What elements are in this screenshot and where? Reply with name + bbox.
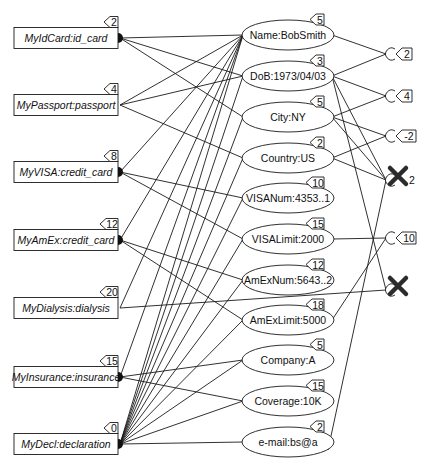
entity-attribute-edge [120, 76, 243, 105]
entity-connector-icon [118, 33, 123, 43]
entity-attribute-edge [120, 35, 243, 240]
entity-label: MyDecl:declaration [21, 438, 110, 450]
constraint-node[interactable]: 2 [386, 48, 412, 60]
attribute-label: AmExLimit:5000 [250, 314, 327, 326]
attribute-label: AmExNum:5643..2 [244, 274, 332, 286]
entity-tag-label: 15 [106, 355, 118, 367]
constraint-tag-label: 2 [404, 48, 410, 60]
violated-constraint-node[interactable]: 2 [386, 168, 415, 186]
constraint-node[interactable]: 10 [386, 232, 416, 244]
attribute-tag-label: 5 [317, 96, 323, 108]
constraint-node[interactable]: 4 [386, 90, 412, 102]
entity-label: MyAmEx:credit_card [18, 234, 116, 246]
constraint-layer: 24-2210 [386, 48, 416, 296]
attribute-tag-label: 10 [312, 177, 324, 189]
attribute-constraint-edge [332, 136, 386, 158]
entity-label: MyIdCard:id_card [25, 32, 109, 44]
entity-node[interactable]: MyDecl:declaration0 [14, 422, 123, 455]
attribute-tag-label: 15 [312, 218, 324, 230]
attribute-constraint-edge [328, 180, 386, 450]
entity-tag-label: 4 [111, 83, 117, 95]
entity-tag-label: 20 [106, 286, 118, 298]
entity-label: MyInsurance:insurance [12, 371, 121, 383]
entity-node[interactable]: MyPassport:passport4 [14, 83, 118, 116]
constraint-tag-label: 2 [409, 174, 415, 186]
entity-label: MyVISA:credit_card [20, 166, 114, 178]
entity-label: MyPassport:passport [17, 99, 117, 111]
attribute-label: DoB:1973/04/03 [250, 70, 326, 82]
attribute-constraint-edge [332, 76, 386, 180]
attribute-tag-label: 2 [317, 421, 323, 433]
attribute-tag-label: 15 [312, 380, 324, 392]
entity-connector-icon [118, 167, 123, 177]
attribute-node[interactable]: AmExNum:5643..212 [242, 259, 334, 296]
entity-attribute-edge [120, 35, 243, 377]
attribute-tag-label: 2 [317, 137, 323, 149]
entity-attribute-edge [120, 280, 243, 444]
constraint-socket-icon [386, 232, 395, 244]
attribute-label: Country:US [261, 152, 315, 164]
attribute-constraint-edge [332, 238, 386, 239]
attribute-label: Company:A [261, 354, 316, 366]
entity-node[interactable]: MyDialysis:dialysis20 [14, 286, 118, 319]
attribute-label: VISALimit:2000 [252, 233, 325, 245]
attribute-node[interactable]: City:NY5 [242, 96, 334, 133]
attribute-tag-label: 5 [317, 339, 323, 351]
entity-node[interactable]: MyIdCard:id_card2 [14, 16, 123, 49]
entity-attribute-edge [120, 172, 243, 198]
attribute-constraint-edge [332, 54, 386, 76]
violated-constraint-node[interactable] [386, 278, 406, 296]
attribute-node[interactable]: Name:BobSmith5 [242, 14, 334, 51]
entity-attribute-edge [120, 35, 243, 308]
entity-tag-label: 2 [111, 16, 117, 28]
constraint-node[interactable]: -2 [386, 130, 416, 142]
attribute-label: Coverage:10K [254, 395, 321, 407]
entity-attribute-edge [120, 35, 243, 172]
attribute-tag-label: 5 [317, 14, 323, 26]
entity-node[interactable]: MyInsurance:insurance15 [12, 355, 123, 388]
constraint-tag-label: -2 [404, 130, 413, 142]
entity-layer: MyIdCard:id_card2MyPassport:passport4MyV… [12, 16, 123, 455]
attribute-constraint-edge [332, 76, 386, 96]
attribute-label: City:NY [270, 111, 306, 123]
attribute-layer: Name:BobSmith5DoB:1973/04/033City:NY5Cou… [242, 14, 334, 458]
entity-label: MyDialysis:dialysis [22, 302, 110, 314]
entity-attribute-edge [120, 38, 243, 117]
constraint-tag-label: 10 [403, 232, 415, 244]
attribute-node[interactable]: VISALimit:200015 [242, 218, 334, 255]
entity-node[interactable]: MyAmEx:credit_card12 [14, 218, 123, 251]
attribute-node[interactable]: DoB:1973/04/033 [242, 55, 334, 92]
constraint-socket-icon [386, 48, 395, 60]
attribute-label: VISANum:4353..1 [246, 192, 330, 204]
entity-node[interactable]: MyVISA:credit_card8 [14, 150, 123, 183]
entity-attribute-edge [120, 35, 243, 38]
entity-attribute-edge [120, 442, 243, 444]
attribute-node[interactable]: Coverage:10K15 [242, 380, 334, 417]
attribute-label: Name:BobSmith [250, 29, 327, 41]
entity-connector-icon [118, 372, 123, 382]
attribute-constraint-edge [332, 158, 386, 180]
attribute-label: e-mail:bs@a [258, 436, 317, 448]
entity-tag-label: 0 [111, 422, 117, 434]
entity-tag-label: 12 [106, 218, 118, 230]
constraint-tag-label: 4 [404, 90, 410, 102]
attribute-constraint-edge [332, 35, 386, 54]
constraint-socket-icon [386, 90, 395, 102]
attribute-node[interactable]: AmExLimit:500018 [242, 299, 334, 336]
attribute-node[interactable]: e-mail:bs@a2 [242, 421, 334, 458]
attribute-tag-label: 12 [312, 259, 324, 271]
attribute-tag-label: 18 [312, 299, 324, 311]
entity-attribute-edge [120, 35, 243, 444]
entity-attribute-edge [120, 239, 243, 444]
attribute-tag-label: 3 [317, 55, 323, 67]
diagram-canvas: MyIdCard:id_card2MyPassport:passport4MyV… [0, 0, 429, 471]
attribute-node[interactable]: Company:A5 [242, 339, 334, 376]
entity-attribute-edge [120, 117, 243, 444]
entity-tag-label: 8 [111, 150, 117, 162]
attribute-node[interactable]: Country:US2 [242, 137, 334, 174]
attribute-constraint-edge [332, 76, 386, 290]
attribute-node[interactable]: VISANum:4353..110 [242, 177, 334, 214]
constraint-socket-icon [386, 130, 395, 142]
